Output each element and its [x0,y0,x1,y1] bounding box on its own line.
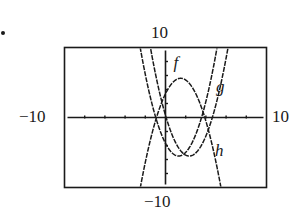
curve-label-f: f [174,54,179,71]
graph-plot [0,0,302,219]
curve-label-g: g [216,78,225,95]
curve-label-h: h [215,142,224,159]
